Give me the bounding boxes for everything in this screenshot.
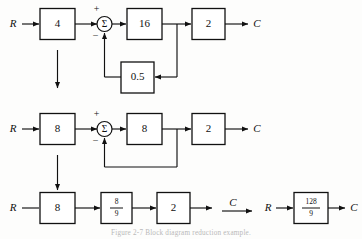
figure-caption: Figure 2-7 Block diagram reduction examp…	[0, 229, 362, 237]
row1-output-label: C	[253, 17, 261, 29]
row1-plus-sign: +	[94, 3, 100, 14]
row2-minus-sign: −	[93, 135, 99, 146]
row4-output-label: C	[350, 201, 358, 213]
row4-input-label: R	[264, 201, 272, 213]
row3-group: R 8 8 9 2	[9, 193, 212, 224]
row3-block-gain-2-label: 2	[171, 201, 177, 213]
row1-input-label: R	[9, 17, 17, 29]
row2-block-gain-2-label: 2	[206, 122, 212, 134]
row3-block-gain-8-label: 8	[55, 201, 61, 213]
row3-block-gain-8-over-9-denominator: 9	[115, 209, 119, 218]
figure-container: R 4 Σ + − 16 2 C	[0, 0, 362, 239]
row1-block-gain-16-label: 16	[139, 17, 151, 29]
row2-plus-sign: +	[94, 108, 100, 119]
row3-output-label: C	[229, 196, 237, 208]
row2-output-label: C	[253, 122, 261, 134]
row1-group: R 4 Σ + − 16 2 C	[9, 3, 262, 93]
row2-group: R 8 Σ + − 8 2 C	[9, 108, 262, 167]
row2-block-gain-8b-label: 8	[142, 122, 148, 134]
block-diagram-canvas: R 4 Σ + − 16 2 C	[0, 0, 362, 239]
row1-sigma-symbol: Σ	[102, 19, 108, 29]
row3-input-label: R	[9, 201, 17, 213]
row3-block-gain-8-over-9-numerator: 8	[115, 197, 119, 206]
row1-minus-sign: −	[93, 30, 99, 41]
row1-block-gain-2-label: 2	[206, 17, 212, 29]
row1-block-feedback-0p5-label: 0.5	[131, 70, 145, 82]
row4-block-gain-128-over-9-numerator: 128	[305, 197, 317, 206]
row2-input-label: R	[9, 122, 17, 134]
row4-block-gain-128-over-9-denominator: 9	[309, 209, 313, 218]
row1-block-gain-4-label: 4	[55, 17, 61, 29]
row4-group: R 128 9 C	[264, 193, 359, 224]
row2-block-gain-8a-label: 8	[55, 122, 61, 134]
row2-sigma-symbol: Σ	[102, 124, 108, 134]
